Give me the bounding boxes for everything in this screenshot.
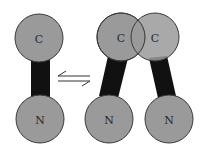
linker-bar <box>31 58 50 98</box>
domain-n: N <box>16 95 64 143</box>
n-domain-label: N <box>104 114 114 127</box>
arrow-left-icon <box>58 71 90 76</box>
linker-bar <box>149 56 176 98</box>
dimerization-diagram: C N N N <box>0 0 202 153</box>
linker-bar <box>99 56 128 98</box>
domain-n: N <box>85 95 133 143</box>
c-domain-label: C <box>35 33 43 46</box>
monomer-state: C N <box>15 14 64 143</box>
dimer-state: N N C C <box>85 13 193 143</box>
equilibrium-arrows-icon <box>58 71 90 86</box>
domain-n: N <box>145 95 193 143</box>
arrow-right-icon <box>58 81 90 86</box>
domain-c: C <box>15 14 63 62</box>
n-domain-label: N <box>164 114 174 127</box>
c-domain-label: C <box>117 32 125 45</box>
c-domain-label: C <box>151 32 159 45</box>
n-domain-label: N <box>35 114 45 127</box>
